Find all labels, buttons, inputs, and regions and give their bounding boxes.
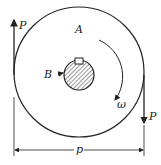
key-icon [75,58,83,64]
force-p-bottom-label: P [148,110,157,123]
omega-label: ω [117,98,126,111]
shaft-b-leader [58,73,63,74]
omega-arc-arrow [99,40,123,100]
pulley-diagram: B A ω P P p [0,0,161,165]
dimension-label: p [76,143,83,156]
pulley-a-label: A [74,23,83,36]
shaft-b-label: B [43,68,52,81]
force-p-top-label: P [18,19,27,32]
